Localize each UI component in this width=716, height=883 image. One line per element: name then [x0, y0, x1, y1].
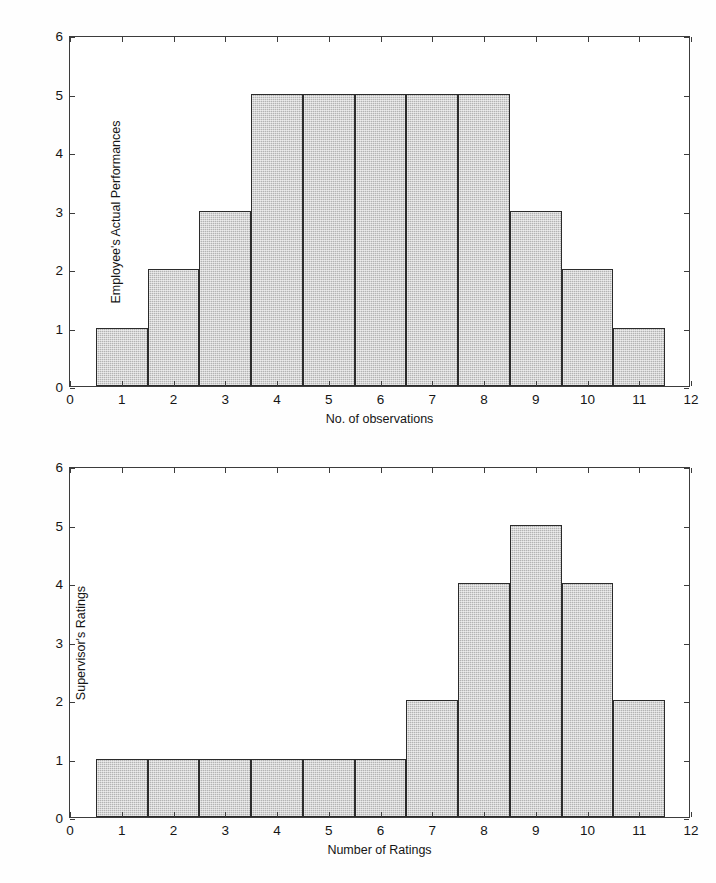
y-tick: [684, 37, 689, 38]
y-tick-label: 3: [55, 206, 63, 220]
x-tick: [381, 37, 382, 42]
bar: [406, 700, 458, 817]
x-tick-label: 7: [428, 824, 436, 838]
y-axis-title-2: Supervisor's Ratings: [74, 585, 88, 699]
y-tick: [684, 819, 689, 820]
y-tick-label: 5: [55, 89, 63, 103]
bar: [406, 94, 458, 387]
x-tick: [329, 37, 330, 42]
x-tick: [484, 812, 485, 817]
bar: [355, 759, 407, 818]
bars-container-1: [70, 37, 689, 386]
x-tick: [70, 468, 71, 473]
x-tick-label: 3: [221, 824, 229, 838]
x-tick: [691, 812, 692, 817]
y-tick: [684, 527, 689, 528]
x-tick-label: 9: [532, 393, 540, 407]
y-tick-label: 6: [55, 461, 63, 475]
y-axis-title-1: Employee's Actual Performances: [109, 120, 123, 303]
x-tick: [329, 468, 330, 473]
y-tick-label: 2: [55, 695, 63, 709]
x-tick-label: 2: [170, 393, 178, 407]
x-tick: [329, 381, 330, 386]
x-tick-label: 11: [632, 824, 646, 838]
x-tick: [536, 468, 537, 473]
x-tick-label: 8: [480, 824, 488, 838]
y-tick-label: 5: [55, 520, 63, 534]
x-tick: [225, 37, 226, 42]
x-tick: [432, 37, 433, 42]
x-tick: [381, 812, 382, 817]
x-tick: [691, 381, 692, 386]
x-tick: [432, 812, 433, 817]
y-tick: [70, 271, 75, 272]
bar: [303, 94, 355, 387]
y-tick: [70, 96, 75, 97]
x-tick-label: 12: [683, 824, 698, 838]
bar: [251, 759, 303, 818]
plot-axes-2: 0123456 0123456789101112 Number of Ratin…: [69, 467, 690, 818]
x-tick: [70, 37, 71, 42]
x-tick-label: 4: [273, 824, 281, 838]
bar: [199, 759, 251, 818]
x-tick: [174, 381, 175, 386]
x-tick: [484, 37, 485, 42]
bar: [458, 583, 510, 817]
chart-employee-actual-performances: 0123456 0123456789101112 No. of observat…: [0, 0, 716, 440]
x-tick-label: 3: [221, 393, 229, 407]
y-tick: [70, 154, 75, 155]
x-tick: [588, 812, 589, 817]
bar: [148, 269, 200, 386]
x-axis-title-2: Number of Ratings: [327, 843, 431, 857]
bar: [96, 759, 148, 818]
x-tick: [122, 37, 123, 42]
bar: [613, 700, 665, 817]
y-tick: [70, 388, 75, 389]
x-tick-label: 11: [632, 393, 646, 407]
x-tick: [691, 37, 692, 42]
x-tick: [225, 812, 226, 817]
x-tick-label: 6: [377, 824, 385, 838]
x-tick: [588, 37, 589, 42]
figure-page: 0123456 0123456789101112 No. of observat…: [0, 0, 716, 883]
bar: [251, 94, 303, 387]
x-tick: [381, 381, 382, 386]
y-tick-label: 1: [55, 754, 63, 768]
y-tick-label: 0: [55, 812, 63, 826]
x-tick: [122, 381, 123, 386]
x-tick-label: 12: [683, 393, 698, 407]
x-tick-label: 10: [580, 393, 595, 407]
x-tick: [277, 468, 278, 473]
x-tick: [639, 37, 640, 42]
plot-axes-1: 0123456 0123456789101112 No. of observat…: [69, 36, 690, 387]
y-tick: [684, 702, 689, 703]
x-tick: [174, 812, 175, 817]
x-tick: [432, 381, 433, 386]
y-tick: [70, 702, 75, 703]
y-tick: [684, 761, 689, 762]
x-tick-label: 9: [532, 824, 540, 838]
x-tick: [432, 468, 433, 473]
x-tick: [484, 468, 485, 473]
bar: [510, 525, 562, 818]
y-tick: [684, 271, 689, 272]
bar: [510, 211, 562, 387]
x-tick-label: 8: [480, 393, 488, 407]
bar: [458, 94, 510, 387]
x-tick-label: 10: [580, 824, 595, 838]
x-tick: [691, 468, 692, 473]
y-tick: [684, 96, 689, 97]
y-tick: [70, 330, 75, 331]
x-tick-label: 0: [66, 824, 74, 838]
bar: [562, 583, 614, 817]
x-tick: [639, 381, 640, 386]
y-tick: [684, 388, 689, 389]
x-tick-label: 7: [428, 393, 436, 407]
x-tick: [329, 812, 330, 817]
x-tick: [225, 381, 226, 386]
bar: [613, 328, 665, 387]
x-tick-label: 5: [325, 824, 333, 838]
x-tick-label: 0: [66, 393, 74, 407]
x-tick: [70, 812, 71, 817]
y-tick: [684, 330, 689, 331]
